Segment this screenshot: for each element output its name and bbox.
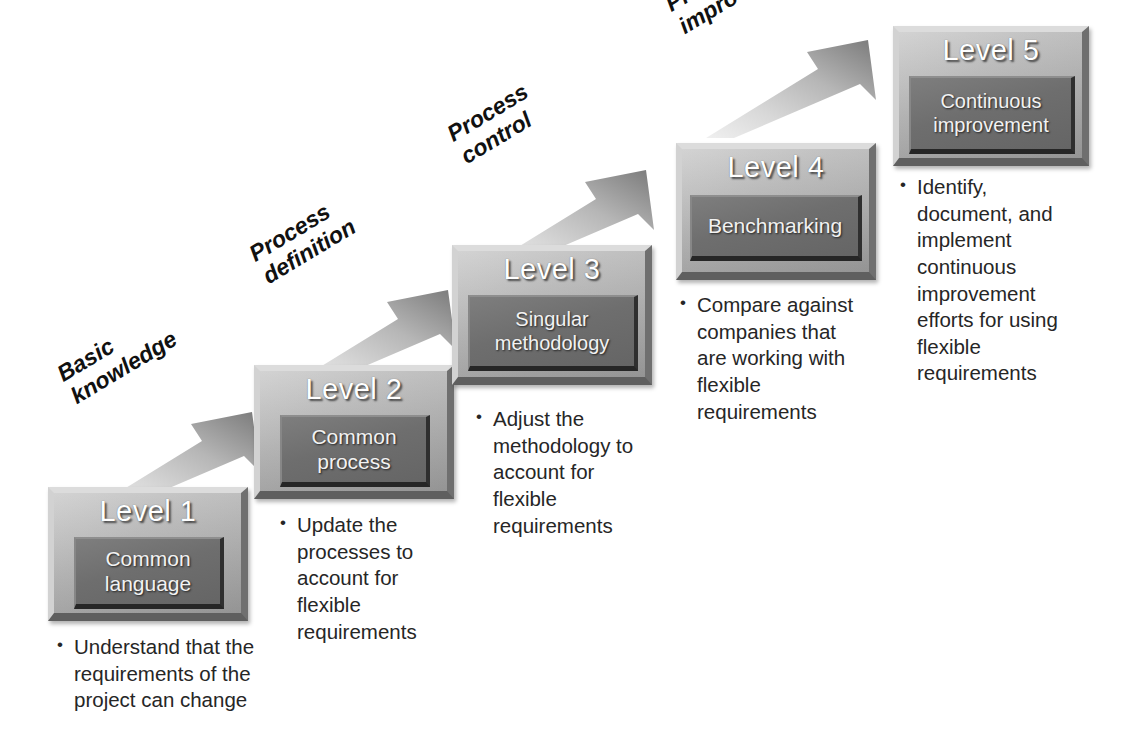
arrow-label-basic-knowledge: Basic knowledge (53, 304, 181, 409)
level-bullets-4: Compare against companies that are worki… (678, 292, 863, 425)
arrow-label-process-improvement: Process improvement (661, 0, 811, 39)
level-inner-box-4: Benchmarking (690, 195, 862, 261)
level-inner-line-2: improvement (933, 114, 1049, 138)
level-bullets-3: Adjust the methodology to account for fl… (474, 406, 652, 539)
level-block-4: Level 4 Benchmarking (676, 143, 876, 280)
level-bullets-2: Update the processes to account for flex… (278, 512, 453, 645)
level-inner-box-1: Common language (74, 537, 224, 609)
level-inner-box-5: Continuous improvement (909, 76, 1075, 154)
level-inner-line-2: language (105, 572, 191, 597)
level-block-5: Level 5 Continuous improvement (893, 26, 1089, 166)
level-block-3: Level 3 Singular methodology (452, 245, 652, 385)
bullet-item: Adjust the methodology to account for fl… (493, 406, 652, 539)
level-title-3: Level 3 (452, 253, 652, 286)
level-inner-box-2: Common process (280, 415, 430, 487)
level-title-5: Level 5 (893, 34, 1089, 67)
level-inner-line-2: process (317, 450, 391, 475)
arrow-label-process-control: Process control (443, 79, 546, 169)
level-bullets-5: Identify, document, and implement contin… (898, 174, 1066, 387)
level-inner-line-1: Singular (515, 308, 588, 332)
level-title-1: Level 1 (48, 495, 248, 528)
arrow-label-line-2: improvement (674, 0, 811, 39)
level-inner-box-3: Singular methodology (468, 295, 638, 371)
arrow-label-process-definition: Process definition (245, 192, 360, 289)
level-bullets-1: Understand that the requirements of the … (55, 634, 305, 714)
level-block-2: Level 2 Common process (254, 365, 454, 499)
arrow-level4-to-level5 (700, 26, 910, 141)
level-block-1: Level 1 Common language (48, 487, 248, 621)
level-inner-line-1: Benchmarking (708, 214, 842, 239)
bullet-item: Understand that the requirements of the … (74, 634, 305, 714)
level-inner-line-1: Common (311, 425, 396, 450)
level-title-2: Level 2 (254, 373, 454, 406)
level-title-4: Level 4 (676, 151, 876, 184)
level-inner-line-2: methodology (495, 332, 610, 356)
level-inner-line-1: Common (105, 547, 190, 572)
bullet-item: Update the processes to account for flex… (297, 512, 453, 645)
level-inner-line-1: Continuous (940, 90, 1041, 114)
bullet-item: Identify, document, and implement contin… (917, 174, 1066, 387)
bullet-item: Compare against companies that are worki… (697, 292, 863, 425)
maturity-model-diagram: Basic knowledge Process definition Proce… (0, 0, 1134, 729)
